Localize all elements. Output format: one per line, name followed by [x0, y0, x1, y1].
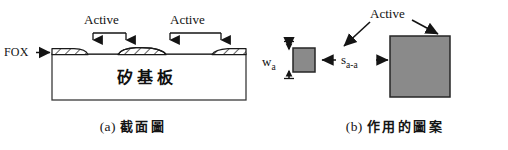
- caption-panel-a: (a)截面圖: [4, 116, 262, 135]
- active-square-large: [390, 36, 450, 97]
- figure-root: FOX Active Active 矽基板 (a)截面圖: [0, 0, 508, 150]
- spacing-dimension-label: sa-a: [341, 52, 358, 70]
- caption-b-text: 作用的圖案: [367, 119, 445, 134]
- panel-active-pattern: Active wa sa-a (b)作用的圖案: [258, 0, 508, 150]
- substrate-label: 矽基板: [117, 64, 177, 88]
- active-leader-left: [344, 22, 370, 46]
- panel-cross-section: FOX Active Active 矽基板 (a)截面圖: [0, 0, 258, 150]
- spacing-subscript: a-a: [346, 60, 358, 70]
- active-label-right: Active: [170, 12, 205, 28]
- width-dimension-label: wa: [262, 54, 276, 72]
- active-square-small: [293, 48, 315, 72]
- caption-panel-b: (b)作用的圖案: [270, 116, 508, 135]
- width-subscript: a: [271, 62, 275, 72]
- active-label: Active: [370, 6, 405, 22]
- active-bracket-left: [93, 33, 126, 40]
- caption-b-tag: (b): [346, 119, 363, 134]
- width-symbol: w: [262, 54, 271, 69]
- fox-region-3: [212, 49, 246, 55]
- fox-region-2: [118, 48, 166, 55]
- active-bracket-right: [170, 33, 221, 40]
- fox-region-1: [52, 49, 88, 55]
- active-leader-right: [412, 20, 438, 34]
- caption-a-text: 截面圖: [120, 119, 167, 134]
- caption-a-tag: (a): [100, 119, 116, 134]
- active-label-left: Active: [84, 12, 119, 28]
- fox-label: FOX: [4, 45, 29, 60]
